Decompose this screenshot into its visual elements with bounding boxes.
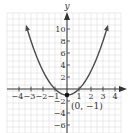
- y-axis-label: y: [64, 1, 71, 11]
- x-tick-label: −4: [12, 92, 24, 101]
- x-tick-label: −2: [36, 92, 48, 101]
- curve-arrow-left-icon: [25, 25, 30, 31]
- y-tick-label: −6: [54, 121, 66, 130]
- y-tick-label: −4: [54, 109, 66, 118]
- y-tick-label: −2: [54, 97, 66, 106]
- x-tick-label: 2: [88, 92, 93, 101]
- curve-arrow-right-icon: [104, 25, 109, 31]
- x-tick-label: 3: [100, 92, 105, 101]
- x-axis-arrow-icon: [119, 86, 127, 92]
- y-tick-label: 2: [60, 73, 65, 82]
- y-tick-label: 10: [55, 25, 65, 34]
- y-tick-label: 6: [60, 49, 65, 58]
- vertex-label: (0, −1): [71, 101, 103, 111]
- y-axis-ticks: 108642−2−4−6: [54, 25, 70, 130]
- x-tick-label: 1: [76, 92, 81, 101]
- x-tick-label: 4: [112, 92, 117, 101]
- y-tick-label: 8: [60, 37, 65, 46]
- x-tick-label: −3: [24, 92, 36, 101]
- parabola-chart: −4−3−2−11234 108642−2−4−6 y (0, −1): [0, 0, 129, 133]
- y-tick-label: 4: [60, 61, 65, 70]
- vertex-point: [65, 93, 70, 98]
